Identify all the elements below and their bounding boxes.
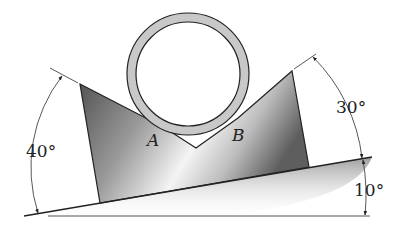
- contact-label-b: B: [231, 125, 245, 145]
- left-extension-line: [50, 68, 78, 83]
- angle-label-left: 40°: [26, 141, 56, 161]
- diagram-svg: 40° 30° 10° A B: [0, 0, 401, 234]
- angle-label-right: 30°: [336, 97, 366, 117]
- pipe-inner: [136, 22, 240, 126]
- contact-label-a: A: [145, 130, 159, 150]
- right-extension-line: [294, 54, 316, 69]
- diagram-canvas: 40° 30° 10° A B: [0, 0, 401, 234]
- angle-label-incline: 10°: [354, 180, 384, 200]
